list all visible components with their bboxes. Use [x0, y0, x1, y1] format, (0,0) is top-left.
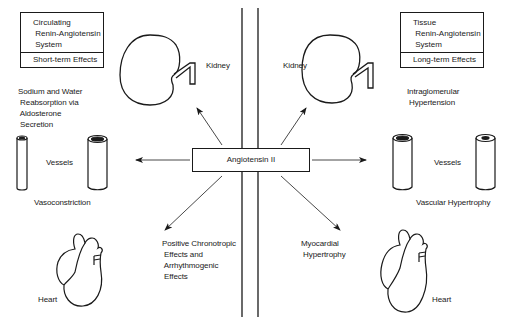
angiotensin-ii-box: Angiotensin II [192, 148, 310, 172]
heart-right-icon [381, 230, 427, 312]
kidney-left-icon [120, 35, 195, 105]
long-term-effects-label: Long-term Effects [401, 52, 483, 67]
chronotropic-effects-label: Positive Chronotropic Effects and Arrhyt… [162, 238, 236, 282]
arrow-to-kidney-right [281, 108, 306, 145]
arrow-to-heart-left [165, 176, 222, 230]
sodium-reabsorption-label: Sodium and Water Reabsorption via Aldost… [18, 86, 82, 130]
kidney-right-label: Kidney [283, 60, 307, 71]
vascular-hypertrophy-label: Vascular Hypertrophy [416, 197, 490, 208]
vessel-thin-left-icon [17, 136, 27, 190]
myocardial-hypertrophy-label: Myocardial Hypertrophy [301, 238, 346, 260]
circulating-ras-box: Circulating Renin-Angiotensin System Sho… [20, 12, 104, 68]
arrow-to-kidney-left [197, 108, 222, 145]
vasoconstriction-label: Vasoconstriction [34, 197, 91, 208]
circulating-ras-title: Circulating Renin-Angiotensin System [21, 13, 103, 52]
kidney-left-label: Kidney [206, 60, 230, 71]
vessel-thick-left-icon [88, 136, 107, 190]
vessels-right-label: Vessels [434, 157, 461, 168]
tissue-ras-title: Tissue Renin-Angiotensin System [401, 13, 483, 52]
heart-left-label: Heart [38, 294, 57, 305]
arrow-to-heart-right [281, 176, 340, 230]
vessel-narrow-lumen-right-icon [476, 135, 495, 190]
heart-right-label: Heart [432, 294, 451, 305]
short-term-effects-label: Short-term Effects [21, 52, 103, 67]
vessels-left-label: Vessels [46, 157, 73, 168]
tissue-ras-box: Tissue Renin-Angiotensin System Long-ter… [400, 12, 484, 68]
intraglomerular-hypertension-label: Intraglomerular Hypertension [407, 86, 459, 108]
kidney-right-icon [302, 35, 373, 103]
angiotensin-diagram: Circulating Renin-Angiotensin System Sho… [0, 0, 511, 325]
vessel-thick-right-icon [393, 135, 412, 190]
heart-left-icon [57, 234, 102, 306]
